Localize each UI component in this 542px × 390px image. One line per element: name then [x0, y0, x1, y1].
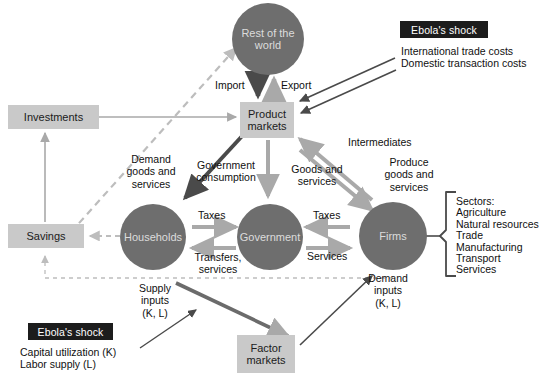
node-rest-of-world[interactable]: Rest of the world — [232, 3, 304, 75]
label-government-consumption: Government consumption — [190, 159, 262, 184]
node-product-markets-label: Product markets — [240, 108, 294, 133]
node-factor-markets[interactable]: Factor markets — [237, 335, 295, 373]
label-demand-goods-services: Demand goods and services — [118, 153, 184, 190]
node-rest-of-world-label: Rest of the world — [232, 27, 304, 51]
node-product-markets[interactable]: Product markets — [240, 102, 294, 138]
node-firms[interactable]: Firms — [359, 202, 427, 270]
node-savings[interactable]: Savings — [8, 224, 84, 248]
shock-bottom-items: Capital utilization (K) Labor supply (L) — [20, 346, 170, 371]
shock-box-top-title: Ebola's shock — [411, 24, 477, 36]
node-factor-markets-label: Factor markets — [237, 342, 295, 367]
arrow-households-to-factor-markets — [176, 283, 288, 336]
label-export: Export — [281, 79, 311, 91]
label-taxes-households: Taxes — [198, 209, 225, 221]
label-goods-and-services: Goods and services — [287, 163, 347, 188]
label-taxes-firms: Taxes — [313, 209, 340, 221]
shock-box-bottom-title: Ebola's shock — [38, 326, 104, 338]
shock-box-top[interactable]: Ebola's shock — [400, 21, 488, 38]
arrow-shock-domestic-transaction-costs — [301, 70, 396, 113]
label-intermediates: Intermediates — [348, 136, 412, 148]
node-investments[interactable]: Investments — [8, 105, 99, 129]
label-supply-inputs: Supply inputs (K, L) — [129, 282, 181, 319]
cge-flow-diagram: Rest of the world Product markets Invest… — [0, 0, 542, 390]
sectors-list: Sectors: Agriculture Natural resources T… — [456, 196, 542, 276]
shock-top-items: International trade costs Domestic trans… — [401, 45, 541, 70]
sectors-brace — [425, 192, 456, 276]
label-demand-inputs: Demand inputs (K, L) — [362, 272, 414, 309]
label-services-firms: Services — [307, 250, 347, 262]
node-investments-label: Investments — [24, 111, 83, 124]
node-households-label: Households — [124, 231, 182, 243]
node-savings-label: Savings — [26, 230, 65, 243]
label-import: Import — [215, 79, 245, 91]
node-firms-label: Firms — [379, 230, 407, 242]
node-households[interactable]: Households — [120, 204, 186, 270]
label-produce-goods-services: Produce goods and services — [378, 156, 440, 193]
label-transfers-services: Transfers, services — [185, 251, 251, 276]
arrow-shock-international-trade-costs — [300, 58, 395, 101]
shock-box-bottom[interactable]: Ebola's shock — [28, 323, 113, 340]
node-government-label: Government — [240, 231, 301, 243]
